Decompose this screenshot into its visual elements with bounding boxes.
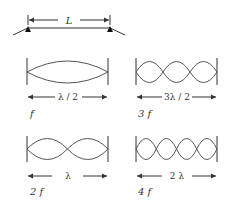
standing-waves-diagram: L λ / 2 f 3λ / 2 3 f λ 2 f [0,0,231,207]
string-setup: L [13,15,125,35]
mode-panel-fourth-harmonic: 2 λ 4 f [136,136,217,197]
mode-panel-second-harmonic: λ 2 f [27,136,108,197]
mode-length-label: 3λ / 2 [164,92,190,102]
mode-length-label: λ / 2 [58,92,78,102]
mode-length-label: λ [65,171,71,181]
mode-freq-label: 2 f [29,186,46,197]
mode-freq-label: f [29,108,36,119]
mode-length-label: 2 λ [170,171,185,181]
mode-freq-label: 4 f [137,186,154,197]
wave-upper [27,61,108,72]
mode-freq-label: 3 f [138,108,154,119]
length-label: L [65,15,73,26]
mode-panel-third-harmonic: 3λ / 2 3 f [136,58,217,119]
wave-lower [27,72,108,83]
mode-panel-fundamental: λ / 2 f [27,58,108,119]
